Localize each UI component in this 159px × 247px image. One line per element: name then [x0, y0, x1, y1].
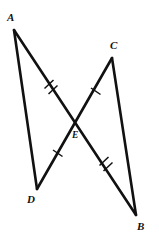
vertex-label-b: B	[137, 221, 144, 232]
vertex-label-d: D	[27, 194, 35, 205]
segment-ad	[14, 30, 37, 189]
tick-mark-eb-double	[100, 157, 113, 171]
segment-cd	[37, 58, 112, 189]
vertex-label-e: E	[72, 131, 78, 141]
geometry-figure: A C E D B	[0, 0, 159, 247]
vertex-label-c: C	[110, 40, 117, 51]
segment-cb	[112, 58, 136, 215]
vertex-label-a: A	[7, 12, 14, 23]
figure-canvas	[0, 0, 159, 247]
